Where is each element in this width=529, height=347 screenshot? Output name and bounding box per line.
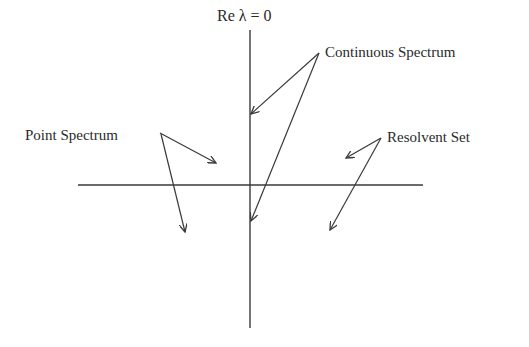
spectrum-diagram: Re λ = 0 Point Spectrum Continuous Spect…	[0, 0, 529, 347]
point-spectrum-arrows	[160, 133, 216, 232]
resolvent-set-arrow-lower	[330, 138, 381, 230]
continuous-spectrum-arrows	[251, 53, 319, 221]
continuous-spectrum-arrow-lower	[251, 53, 319, 221]
continuous-spectrum-label: Continuous Spectrum	[325, 45, 455, 60]
point-spectrum-arrow-lower	[161, 134, 185, 232]
axis-label: Re λ = 0	[217, 8, 272, 24]
point-spectrum-arrow-upper	[160, 133, 216, 163]
continuous-spectrum-arrow-upper	[251, 53, 319, 114]
resolvent-set-label: Resolvent Set	[387, 130, 470, 145]
point-spectrum-label: Point Spectrum	[25, 128, 118, 143]
resolvent-set-arrows	[330, 138, 381, 230]
